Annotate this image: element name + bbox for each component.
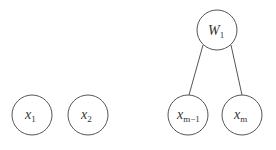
node-x2: x2 bbox=[68, 95, 108, 135]
node-subscript: m−1 bbox=[183, 114, 200, 124]
node-xm-1: xm−1 bbox=[168, 95, 208, 135]
node-x1: x1 bbox=[12, 95, 52, 135]
node-subscript: 2 bbox=[87, 114, 92, 124]
node-subscript: 1 bbox=[220, 30, 225, 40]
graph-diagram: x1 x2 xm−1 xm W1 bbox=[0, 0, 276, 150]
edge-w1-xm-1 bbox=[189, 45, 203, 95]
node-subscript: 1 bbox=[31, 114, 36, 124]
node-w1: W1 bbox=[197, 10, 237, 50]
node-xm: xm bbox=[222, 95, 262, 135]
edge-w1-xm bbox=[231, 45, 242, 95]
node-subscript: m bbox=[240, 114, 247, 124]
